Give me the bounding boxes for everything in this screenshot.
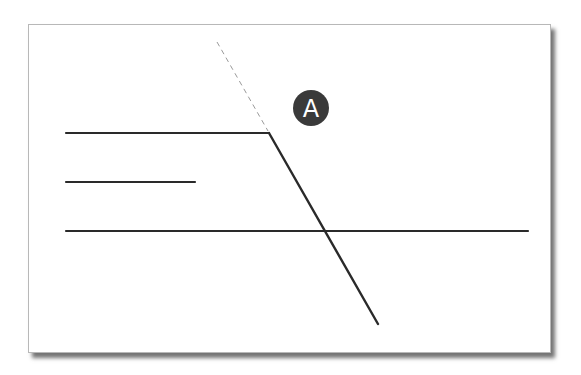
line-diagonal-dashed-extension bbox=[217, 42, 268, 131]
label-badge-a: A bbox=[293, 90, 329, 126]
badge-label: A bbox=[303, 95, 320, 123]
line-diagonal bbox=[269, 133, 378, 324]
diagram-stage: A bbox=[0, 0, 581, 375]
diagram-canvas: A bbox=[0, 0, 581, 375]
